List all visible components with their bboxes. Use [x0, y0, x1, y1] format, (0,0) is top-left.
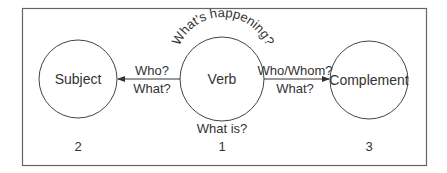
verb-top-label-path: What's happening?: [169, 5, 278, 48]
edge-verb-subject: Who? What?: [118, 63, 180, 96]
edge-complement-line2: What?: [276, 81, 314, 96]
edge-complement-line1: Who/Whom?: [257, 63, 332, 78]
verb-number: 1: [218, 139, 225, 154]
verb-top-label: What's happening?: [169, 5, 278, 48]
sentence-structure-diagram: Subject 2 Verb 1 What's happening? What …: [0, 0, 447, 173]
subject-label: Subject: [55, 71, 102, 87]
node-verb: Verb 1 What's happening? What is?: [169, 5, 278, 154]
edge-verb-complement: Who/Whom? What?: [257, 63, 332, 96]
complement-label: Complement: [329, 72, 408, 88]
verb-label: Verb: [208, 71, 237, 87]
subject-number: 2: [74, 139, 81, 154]
node-subject: Subject 2: [39, 40, 117, 154]
edge-subject-line1: Who?: [135, 63, 169, 78]
node-complement: Complement 3: [329, 41, 408, 154]
verb-bottom-label: What is?: [197, 121, 248, 136]
edge-subject-line2: What?: [133, 81, 171, 96]
complement-number: 3: [365, 139, 372, 154]
